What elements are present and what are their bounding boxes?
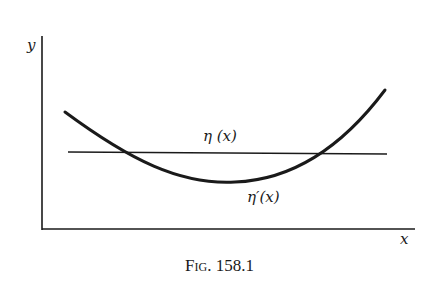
y-axis-label: y bbox=[27, 38, 35, 53]
eta-line-label: η (x) bbox=[203, 129, 237, 144]
caption-prefix: Fig. bbox=[185, 256, 211, 275]
caption-number: 158.1 bbox=[216, 256, 254, 275]
eta-prime-curve-label: η′(x) bbox=[247, 190, 280, 205]
figure-158-1: y x η (x) η′(x) Fig. 158.1 bbox=[0, 0, 439, 286]
figure-caption: Fig. 158.1 bbox=[0, 256, 439, 276]
eta-line bbox=[68, 152, 387, 154]
x-axis-label: x bbox=[400, 232, 408, 247]
